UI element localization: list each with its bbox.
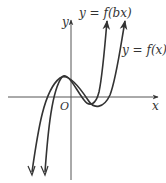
x-axis-label: x (152, 99, 159, 113)
label-f-x: y = f(x) (121, 43, 166, 57)
graph: y x O y = f(bx) y = f(x) (0, 0, 166, 183)
label-f-bx: y = f(bx) (78, 6, 132, 20)
origin-label: O (60, 100, 69, 113)
y-axis-label: y (61, 15, 69, 29)
